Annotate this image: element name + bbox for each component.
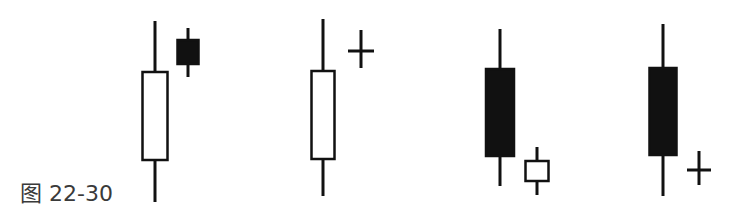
pattern-2 — [312, 19, 375, 196]
candle-doji-gap-up — [348, 30, 374, 68]
candle-small-black-gap-up — [178, 28, 199, 77]
candle-long-white — [143, 21, 168, 202]
pattern-4 — [650, 24, 712, 196]
candle-body — [650, 68, 677, 155]
candle-body — [312, 71, 335, 159]
candle-body — [526, 161, 549, 181]
candle-long-black — [486, 29, 514, 186]
candle-small-white-gap-down — [526, 147, 549, 195]
candle-body — [178, 40, 199, 64]
candle-body — [486, 69, 514, 156]
figure-caption: 图 22-30 — [20, 175, 113, 207]
pattern-1 — [143, 21, 199, 202]
candle-body — [143, 72, 168, 160]
pattern-3 — [486, 29, 549, 195]
candle-doji-gap-down — [687, 151, 711, 185]
candle-long-white — [312, 19, 335, 196]
candle-long-black — [650, 24, 677, 196]
